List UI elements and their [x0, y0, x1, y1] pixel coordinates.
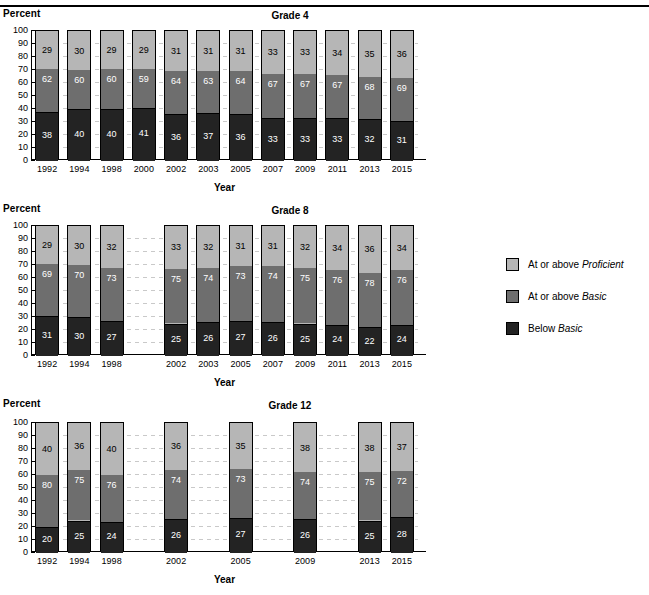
value-label-basic-2002: 64 — [165, 77, 187, 86]
x-tick-label-1998: 1998 — [87, 359, 137, 369]
value-label-basic-1998: 73 — [101, 274, 123, 283]
value-label-proficient-1998: 40 — [101, 445, 123, 454]
chart-legend: At or above ProficientAt or above BasicB… — [506, 258, 646, 354]
y-axis-title: Percent — [3, 203, 40, 214]
bar-2000: 295941 — [132, 30, 156, 160]
value-label-basic-2013: 78 — [359, 279, 381, 288]
bar-2011: 346733 — [325, 30, 349, 160]
value-label-proficient-2011: 34 — [326, 244, 348, 253]
bar-2011: 347624 — [325, 225, 349, 355]
value-label-below-basic-2000: 41 — [133, 129, 155, 138]
value-label-proficient-2002: 33 — [165, 243, 187, 252]
bar-2013: 356832 — [358, 30, 382, 160]
value-label-below-basic-1994: 25 — [68, 532, 90, 541]
bar-2005: 357327 — [229, 422, 253, 552]
y-axis-title: Percent — [3, 398, 40, 409]
value-label-below-basic-2002: 36 — [165, 133, 187, 142]
x-axis-title: Year — [165, 182, 285, 193]
legend-label-plain: At or above — [528, 259, 582, 270]
value-label-below-basic-1998: 40 — [101, 130, 123, 139]
bar-2009: 336733 — [293, 30, 317, 160]
x-tick-label-1998: 1998 — [87, 556, 137, 566]
y-tick-label: 100 — [6, 26, 28, 35]
x-tick-label-2002: 2002 — [151, 556, 201, 566]
value-label-proficient-2005: 35 — [230, 442, 252, 451]
value-label-below-basic-2005: 36 — [230, 133, 252, 142]
y-tick-mark — [31, 355, 35, 356]
value-label-proficient-2007: 31 — [262, 242, 284, 251]
value-label-proficient-2015: 34 — [391, 244, 413, 253]
y-tick-label: 20 — [6, 130, 28, 139]
value-label-proficient-2000: 29 — [133, 46, 155, 55]
x-tick-label-2015: 2015 — [377, 556, 427, 566]
value-label-basic-1994: 75 — [68, 476, 90, 485]
bar-2013: 387525 — [358, 422, 382, 552]
value-label-below-basic-2003: 26 — [197, 334, 219, 343]
value-label-proficient-1998: 29 — [101, 46, 123, 55]
value-label-below-basic-2009: 26 — [294, 531, 316, 540]
value-label-proficient-2005: 31 — [230, 47, 252, 56]
legend-label-italic: Basic — [558, 323, 582, 334]
value-label-basic-1994: 60 — [68, 76, 90, 85]
value-label-proficient-1998: 32 — [101, 243, 123, 252]
bar-2015: 377228 — [390, 422, 414, 552]
value-label-below-basic-1998: 24 — [101, 532, 123, 541]
legend-label-plain: At or above — [528, 291, 582, 302]
value-label-proficient-1992: 29 — [36, 46, 58, 55]
value-label-basic-2011: 76 — [326, 276, 348, 285]
legend-label-at-or-above-basic: At or above Basic — [528, 291, 606, 302]
bar-2005: 317327 — [229, 225, 253, 355]
value-label-proficient-2003: 32 — [197, 243, 219, 252]
x-axis-title: Year — [165, 574, 285, 585]
panel-title-grade-12: Grade 12 — [230, 400, 350, 411]
y-tick-label: 30 — [6, 312, 28, 321]
bar-2002: 316436 — [164, 30, 188, 160]
bar-2009: 387426 — [293, 422, 317, 552]
y-tick-label: 20 — [6, 325, 28, 334]
bar-2015: 366931 — [390, 30, 414, 160]
value-label-below-basic-2002: 25 — [165, 335, 187, 344]
value-label-below-basic-1992: 20 — [36, 535, 58, 544]
y-tick-label: 10 — [6, 338, 28, 347]
x-axis-title: Year — [165, 377, 285, 388]
bar-2013: 367822 — [358, 225, 382, 355]
value-label-below-basic-2013: 25 — [359, 532, 381, 541]
top-rule — [0, 5, 649, 7]
value-label-basic-2013: 68 — [359, 83, 381, 92]
bar-1994: 307030 — [67, 225, 91, 355]
y-tick-label: 40 — [6, 104, 28, 113]
value-label-below-basic-2015: 28 — [391, 530, 413, 539]
value-label-proficient-2002: 36 — [165, 442, 187, 451]
value-label-proficient-2015: 36 — [391, 50, 413, 59]
value-label-below-basic-2002: 26 — [165, 531, 187, 540]
value-label-basic-2005: 73 — [230, 272, 252, 281]
value-label-basic-2007: 74 — [262, 272, 284, 281]
value-label-basic-2013: 75 — [359, 478, 381, 487]
value-label-proficient-1994: 30 — [68, 242, 90, 251]
legend-item-at-or-above-proficient: At or above Proficient — [506, 258, 646, 271]
value-label-below-basic-2011: 33 — [326, 135, 348, 144]
x-tick-label-2005: 2005 — [216, 556, 266, 566]
value-label-basic-2009: 74 — [294, 478, 316, 487]
value-label-proficient-1994: 36 — [68, 442, 90, 451]
legend-label-italic: Proficient — [582, 259, 624, 270]
y-tick-label: 60 — [6, 78, 28, 87]
value-label-basic-2015: 76 — [391, 276, 413, 285]
y-tick-label: 100 — [6, 418, 28, 427]
panel-title-grade-8: Grade 8 — [230, 205, 350, 216]
value-label-basic-1992: 69 — [36, 270, 58, 279]
y-tick-label: 50 — [6, 91, 28, 100]
legend-swatch-at-or-above-basic — [506, 290, 519, 303]
plot-area: 1009080706050403020100296931199230703019… — [31, 225, 418, 355]
y-tick-label: 90 — [6, 234, 28, 243]
y-tick-label: 80 — [6, 52, 28, 61]
y-tick-label: 20 — [6, 522, 28, 531]
bar-2003: 327426 — [196, 225, 220, 355]
value-label-proficient-1992: 40 — [36, 445, 58, 454]
y-tick-label: 50 — [6, 286, 28, 295]
bar-1994: 306040 — [67, 30, 91, 160]
value-label-below-basic-1998: 27 — [101, 333, 123, 342]
chart-panel-grade-12: PercentGrade 121009080706050403020100408… — [0, 398, 649, 595]
bar-1994: 367525 — [67, 422, 91, 552]
bar-2002: 367426 — [164, 422, 188, 552]
